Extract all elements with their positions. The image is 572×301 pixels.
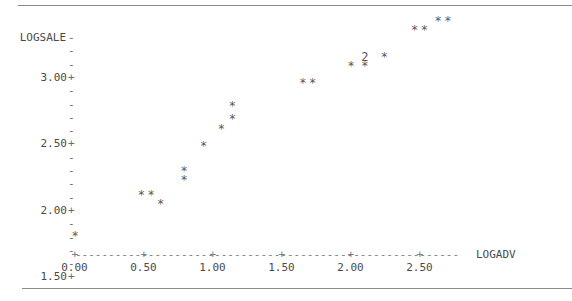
data-point: * <box>421 25 428 36</box>
data-point: * <box>381 52 388 63</box>
y-minor-tick: - <box>68 165 75 176</box>
y-major-tick: + <box>68 138 75 149</box>
x-tick-label: 2.00 <box>337 262 364 273</box>
data-point: * <box>444 16 451 27</box>
data-point: * <box>299 78 306 89</box>
x-major-tick: + <box>279 249 286 260</box>
x-tick-label: 0.00 <box>61 262 88 273</box>
y-axis-title: LOGSALE <box>20 32 66 43</box>
y-minor-tick: - <box>68 152 75 163</box>
x-major-tick: + <box>210 249 217 260</box>
y-minor-tick: - <box>68 112 75 123</box>
data-point: * <box>434 16 441 27</box>
y-minor-tick: - <box>68 125 75 136</box>
y-minor-tick: - <box>68 85 75 96</box>
ascii-scatter-plot: LOGSALE---3.00+----2.50+----2.00+----1.5… <box>0 0 572 301</box>
y-minor-tick: - <box>68 59 75 70</box>
x-tick-label: 0.50 <box>130 262 157 273</box>
data-point-overplot: 2 <box>361 52 368 63</box>
x-axis-line: ----------------------------------------… <box>75 249 459 260</box>
y-minor-tick: - <box>68 45 75 56</box>
data-point: * <box>348 61 355 72</box>
data-point: * <box>157 199 164 210</box>
data-point: * <box>200 141 207 152</box>
data-point: * <box>309 78 316 89</box>
x-tick-label: 1.50 <box>268 262 295 273</box>
y-tick-label: 2.50 <box>40 138 67 149</box>
data-point: * <box>138 190 145 201</box>
y-minor-tick: - <box>68 99 75 110</box>
y-minor-tick: - <box>68 192 75 203</box>
x-tick-label: 2.50 <box>406 262 433 273</box>
y-major-tick: + <box>68 72 75 83</box>
data-point: * <box>147 190 154 201</box>
y-minor-tick: - <box>68 32 75 43</box>
x-major-tick: + <box>141 249 148 260</box>
screenshot-root: LOGSALE---3.00+----2.50+----2.00+----1.5… <box>0 0 572 301</box>
y-major-tick: + <box>68 205 75 216</box>
y-tick-label: 2.00 <box>40 205 67 216</box>
x-major-tick: + <box>348 249 355 260</box>
data-point: * <box>72 231 79 242</box>
y-minor-tick: - <box>68 218 75 229</box>
data-point: * <box>218 124 225 135</box>
data-point: * <box>229 114 236 125</box>
y-tick-label: 3.00 <box>40 72 67 83</box>
data-point: * <box>411 25 418 36</box>
x-major-tick: + <box>72 249 79 260</box>
data-point: * <box>181 166 188 177</box>
y-minor-tick: - <box>68 178 75 189</box>
data-point: * <box>229 101 236 112</box>
x-axis-title: LOGADV <box>476 249 516 260</box>
x-tick-label: 1.00 <box>199 262 226 273</box>
x-major-tick: + <box>417 249 424 260</box>
